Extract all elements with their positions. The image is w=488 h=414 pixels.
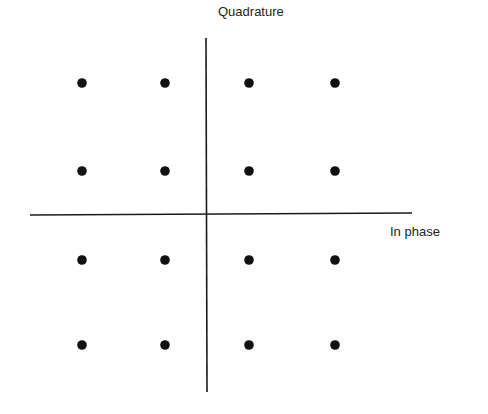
constellation-diagram: Quadrature In phase <box>0 0 488 414</box>
in-phase-axis <box>30 213 412 215</box>
quadrature-axis <box>206 38 207 392</box>
constellation-point <box>244 255 254 265</box>
constellation-point <box>244 166 254 176</box>
in-phase-axis-label: In phase <box>390 224 440 239</box>
constellation-point <box>244 340 254 350</box>
constellation-point <box>160 340 170 350</box>
quadrature-axis-label: Quadrature <box>218 4 284 19</box>
diagram-canvas <box>0 0 488 414</box>
constellation-point <box>160 255 170 265</box>
constellation-point <box>330 166 340 176</box>
constellation-point <box>244 78 254 88</box>
constellation-point <box>77 166 87 176</box>
constellation-point <box>330 255 340 265</box>
constellation-point <box>77 255 87 265</box>
constellation-point <box>77 78 87 88</box>
constellation-point <box>330 340 340 350</box>
constellation-point <box>160 78 170 88</box>
constellation-point <box>160 166 170 176</box>
constellation-point <box>330 78 340 88</box>
constellation-point <box>77 340 87 350</box>
